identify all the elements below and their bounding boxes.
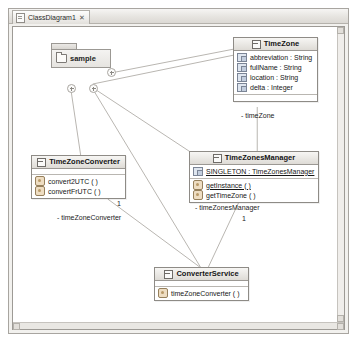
class-header: TimeZone (234, 38, 317, 51)
anchor-package-bottom-mid[interactable] (89, 84, 98, 93)
multiplicity-timezonesmanager: 1 (242, 215, 246, 222)
operations-compartment: timeZoneConverter ( ) (155, 287, 248, 300)
class-icon (252, 40, 261, 49)
method-icon (193, 180, 203, 190)
folder-icon (56, 54, 67, 63)
line-converter-service (108, 199, 203, 269)
attribute-row[interactable]: SINGLETON : TimeZonesManager (190, 166, 318, 176)
class-header: TimeZonesManager (190, 152, 318, 165)
attribute-label: SINGLETON : TimeZonesManager (206, 168, 314, 175)
method-icon (193, 190, 203, 200)
horizontal-scrollbar[interactable] (13, 322, 344, 329)
package-sample[interactable]: sample (51, 43, 111, 68)
class-icon (164, 270, 173, 279)
class-name: TimeZonesManager (225, 154, 295, 162)
attribute-row[interactable]: fullName : String (234, 62, 317, 72)
operation-label: timeZoneConverter ( ) (171, 290, 239, 297)
class-timezone[interactable]: TimeZone abbreviation : String fullName … (233, 37, 318, 102)
vertical-scrollbar[interactable] (337, 27, 344, 322)
operations-compartment: getInstance ( ) getTimeZone ( ) (190, 179, 318, 202)
class-converterservice[interactable]: ConverterService timeZoneConverter ( ) (154, 267, 249, 301)
operation-row[interactable]: getInstance ( ) (190, 180, 318, 190)
scroll-up-button[interactable] (337, 27, 344, 34)
line-package-manager (95, 89, 191, 152)
attribute-label: abbreviation : String (250, 54, 312, 61)
operations-compartment: convert2UTC ( ) convertFrUTC ( ) (32, 175, 125, 198)
attribute-row[interactable]: abbreviation : String (234, 52, 317, 62)
attribute-label: delta : Integer (250, 84, 293, 91)
method-icon (35, 176, 45, 186)
class-header: ConverterService (155, 268, 248, 281)
class-name: TimeZone (264, 40, 299, 48)
attribute-icon (193, 167, 203, 176)
tab-label: ClassDiagram1 (28, 14, 76, 21)
method-icon (158, 288, 168, 298)
operation-row[interactable]: convertFrUTC ( ) (32, 186, 125, 196)
class-icon (213, 154, 222, 163)
class-timezonesmanager[interactable]: TimeZonesManager SINGLETON : TimeZonesMa… (189, 151, 319, 203)
diagram-canvas-container: sample TimeZone abbreviation : String (12, 26, 345, 330)
line-package-converter (71, 89, 81, 156)
operation-row[interactable]: timeZoneConverter ( ) (155, 288, 248, 298)
attribute-row[interactable]: delta : Integer (234, 82, 317, 92)
attribute-label: fullName : String (250, 64, 302, 71)
role-timezonesmanager: - timeZonesManager (195, 204, 260, 211)
anchor-package-bottom-left[interactable] (67, 84, 76, 93)
attribute-icon (237, 53, 247, 62)
package-name: sample (70, 55, 96, 63)
diagram-canvas[interactable]: sample TimeZone abbreviation : String (13, 27, 337, 322)
close-icon[interactable]: ✕ (79, 14, 85, 21)
method-icon (35, 186, 45, 196)
document-icon (16, 13, 25, 23)
attribute-label: location : String (250, 74, 298, 81)
attribute-icon (237, 83, 247, 92)
operation-label: convertFrUTC ( ) (48, 188, 101, 195)
scroll-left-button[interactable] (13, 323, 20, 330)
class-name: TimeZoneConverter (49, 158, 120, 166)
line-package-timezone (111, 49, 235, 73)
package-body: sample (51, 49, 111, 68)
class-diagram-window: ClassDiagram1 ✕ (8, 8, 349, 334)
attribute-icon (237, 63, 247, 72)
class-header: TimeZoneConverter (32, 156, 125, 169)
multiplicity-timezoneconverter: 1 (117, 200, 121, 207)
attribute-icon (237, 73, 247, 82)
attributes-compartment: SINGLETON : TimeZonesManager (190, 165, 318, 179)
operation-row[interactable]: getTimeZone ( ) (190, 190, 318, 200)
role-timezone: - timeZone (241, 112, 274, 119)
class-icon (37, 158, 46, 167)
operation-label: getTimeZone ( ) (206, 192, 256, 199)
operation-label: getInstance ( ) (206, 182, 251, 189)
class-name: ConverterService (176, 270, 238, 278)
scroll-right-button[interactable] (337, 323, 344, 330)
role-timezoneconverter: - timeZoneConverter (57, 214, 121, 221)
operations-compartment (234, 95, 317, 101)
operation-row[interactable]: convert2UTC ( ) (32, 176, 125, 186)
tab-classdiagram1[interactable]: ClassDiagram1 ✕ (12, 10, 90, 24)
editor-tab-strip: ClassDiagram1 ✕ (9, 9, 348, 24)
operation-label: convert2UTC ( ) (48, 178, 98, 185)
attribute-row[interactable]: location : String (234, 72, 317, 82)
attributes-compartment: abbreviation : String fullName : String … (234, 51, 317, 95)
class-timezoneconverter[interactable]: TimeZoneConverter convert2UTC ( ) conver… (31, 155, 126, 199)
anchor-package-right[interactable] (107, 68, 116, 77)
scroll-down-button[interactable] (337, 315, 344, 322)
